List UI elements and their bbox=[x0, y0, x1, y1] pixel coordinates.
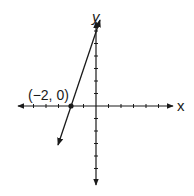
x-axis-label: x bbox=[177, 97, 185, 114]
graphed-line bbox=[58, 20, 100, 145]
intercept-point bbox=[68, 103, 73, 108]
point-label: (−2, 0) bbox=[28, 87, 69, 103]
coordinate-plane: (−2, 0) x y bbox=[0, 0, 194, 196]
